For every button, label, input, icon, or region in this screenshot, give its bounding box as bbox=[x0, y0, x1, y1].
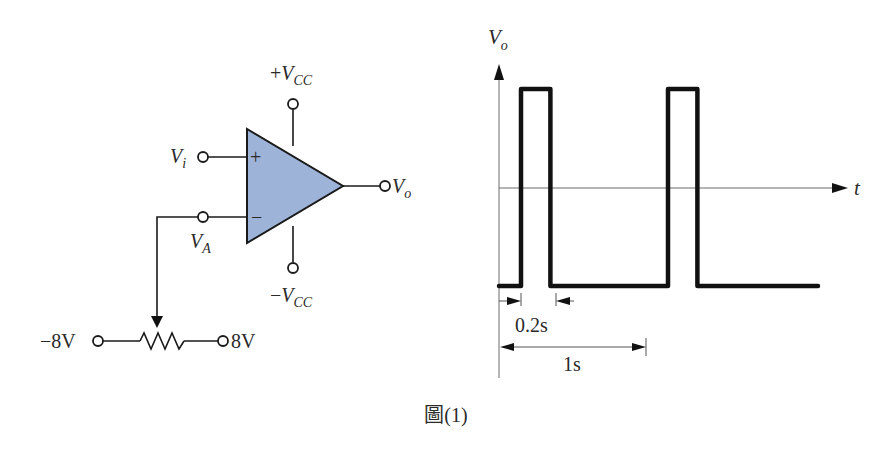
resistor-zigzag-icon bbox=[140, 333, 184, 349]
figure-caption: 圖(1) bbox=[424, 404, 467, 427]
pot-left-terminal bbox=[93, 336, 103, 346]
y-axis-arrow-icon bbox=[494, 64, 504, 80]
opamp-circuit: +VCC −VCC + − Vi VA Vo −8V 8V bbox=[40, 62, 411, 352]
vo-terminal bbox=[380, 181, 390, 191]
x-axis-label: t bbox=[854, 176, 861, 200]
va-terminal bbox=[198, 212, 208, 222]
potentiometer: −8V 8V bbox=[40, 330, 256, 352]
pot-right-voltage: 8V bbox=[231, 330, 256, 352]
period-dimension: 1s bbox=[500, 338, 646, 375]
pot-left-voltage: −8V bbox=[40, 330, 76, 352]
vi-terminal bbox=[198, 152, 208, 162]
vcc-neg-terminal bbox=[288, 263, 298, 273]
opamp-minus-sign: − bbox=[251, 206, 262, 228]
wiper-arrow-icon bbox=[151, 316, 163, 328]
x-axis-arrow-icon bbox=[832, 183, 848, 193]
vcc-neg-label: −VCC bbox=[270, 284, 313, 310]
opamp-plus-sign: + bbox=[250, 146, 261, 168]
figure-canvas: +VCC −VCC + − Vi VA Vo −8V 8V bbox=[0, 0, 889, 449]
vcc-pos-label: +VCC bbox=[270, 62, 313, 88]
pulse-width-arrow-right-icon bbox=[507, 297, 521, 305]
y-axis-label: Vo bbox=[488, 25, 508, 53]
waveform-plot: Vo t 0.2s 1s bbox=[488, 25, 861, 378]
vcc-pos-terminal bbox=[288, 99, 298, 109]
period-arrow-right-icon bbox=[632, 343, 646, 351]
vo-label: Vo bbox=[392, 175, 411, 201]
period-label: 1s bbox=[563, 353, 581, 375]
pulse-width-arrow-left-icon bbox=[556, 297, 570, 305]
pot-right-terminal bbox=[218, 336, 228, 346]
va-label: VA bbox=[190, 230, 211, 256]
vi-label: Vi bbox=[170, 145, 186, 171]
pulse-width-label: 0.2s bbox=[515, 314, 548, 336]
pulse-width-dimension: 0.2s bbox=[499, 293, 574, 336]
period-arrow-left-icon bbox=[500, 343, 514, 351]
